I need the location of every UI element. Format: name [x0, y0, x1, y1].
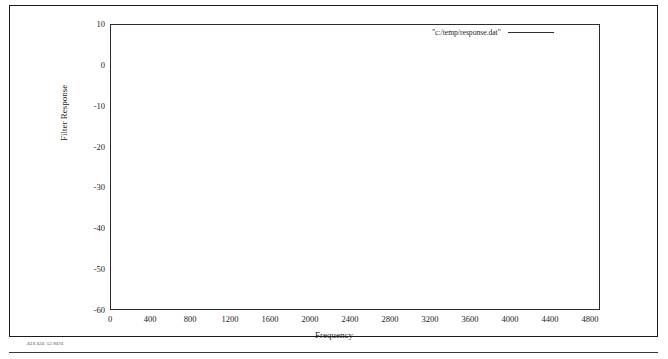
y-tick-label: 0: [101, 60, 105, 70]
y-tick-label: -30: [94, 182, 105, 192]
x-tick-label: 3600: [462, 314, 479, 324]
x-axis-title: Frequency: [0, 330, 668, 340]
y-axis-title-text: Filter Response: [59, 85, 69, 141]
plot-area: [110, 24, 600, 310]
y-tick-label: 10: [97, 19, 106, 29]
x-tick-label: 400: [144, 314, 157, 324]
legend-line-sample: [508, 32, 554, 33]
x-axis-tick-labels: 0400800120016002000240028003200360040004…: [110, 314, 600, 328]
x-tick-label: 2800: [382, 314, 399, 324]
y-tick-label: -20: [94, 142, 105, 152]
x-tick-label: 0: [108, 314, 112, 324]
coordinate-readout: -623.324, 12.9474: [26, 341, 63, 346]
y-tick-label: -50: [94, 264, 105, 274]
x-tick-label: 2400: [342, 314, 359, 324]
x-tick-label: 1600: [262, 314, 279, 324]
x-axis-title-text: Frequency: [315, 330, 353, 340]
figure-page: -623.324, 12.9474 Filter Response 100-10…: [0, 0, 668, 359]
y-axis-tick-labels: 100-10-20-30-40-50-60: [78, 24, 105, 310]
page-divider-rule: [9, 352, 658, 353]
x-tick-label: 4800: [582, 314, 599, 324]
x-tick-label: 3200: [422, 314, 439, 324]
legend: "c:/temp/response.dat": [432, 28, 554, 37]
x-tick-label: 2000: [302, 314, 319, 324]
x-tick-label: 4400: [542, 314, 559, 324]
x-tick-label: 800: [184, 314, 197, 324]
x-tick-label: 4000: [502, 314, 519, 324]
x-tick-label: 1200: [222, 314, 239, 324]
y-tick-label: -40: [94, 223, 105, 233]
plot-frame: [110, 24, 600, 310]
y-axis-title: Filter Response: [59, 123, 69, 141]
legend-entry-label: "c:/temp/response.dat": [432, 28, 501, 37]
y-tick-label: -10: [94, 101, 105, 111]
y-tick-label: -60: [94, 305, 105, 315]
